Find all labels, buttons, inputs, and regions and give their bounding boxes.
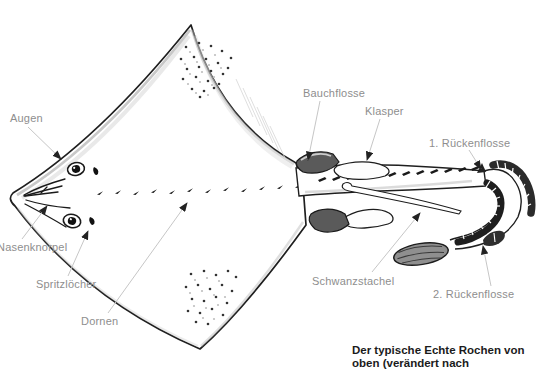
leader-bauchflosse (308, 101, 320, 160)
label-rueckenflosse-2: 2. Rückenflosse (433, 288, 514, 300)
label-rueckenflosse-1: 1. Rückenflosse (429, 137, 510, 149)
caption-line-2: oben (verändert nach (352, 357, 525, 370)
tail-paddle (392, 239, 450, 268)
label-schwanzstachel: Schwanzstachel (312, 275, 394, 287)
label-augen: Augen (10, 112, 43, 124)
label-dornen: Dornen (81, 315, 118, 327)
label-klasper: Klasper (365, 105, 404, 117)
label-spritzloecher: Spritzlöcher (36, 278, 96, 290)
ray-body (10, 25, 306, 349)
clasper-upper (334, 162, 389, 180)
label-nasenknorpel: Nasenknorpel (0, 241, 67, 253)
clasper-lower (344, 209, 393, 228)
figure-page: Augen Nasenknorpel Spritzlöcher Dornen B… (0, 0, 540, 379)
figure-caption: Der typische Echte Rochen von oben (verä… (352, 344, 525, 370)
leader-rueckenflosse-1 (469, 150, 481, 169)
leader-rueckenflosse-2 (483, 246, 491, 286)
label-bauchflosse: Bauchflosse (303, 87, 365, 99)
pelvic-fin-lower (309, 209, 349, 232)
leader-klasper (367, 119, 380, 160)
caption-line-1: Der typische Echte Rochen von (352, 344, 525, 357)
leader-augen (28, 127, 61, 159)
